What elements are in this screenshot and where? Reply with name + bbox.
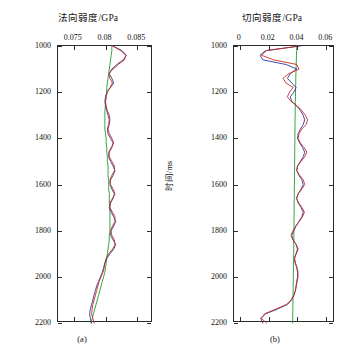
y-tick-mark — [147, 231, 151, 232]
y-tick-label: 2000 — [5, 271, 51, 280]
chart-panel-a: 法向弱度/GPa 0.0750.080.085 1000120014001600… — [0, 0, 180, 355]
y-tick-label: 1200 — [5, 87, 51, 96]
y-tick-mark — [234, 323, 238, 324]
panel-b-plot-area — [233, 45, 334, 322]
x-tick-label: 0 — [237, 33, 241, 42]
x-tick-label: 0.075 — [64, 33, 82, 42]
x-tick-mark — [106, 46, 107, 50]
y-tick-mark — [147, 92, 151, 93]
panel-a-caption: (a) — [0, 334, 172, 344]
panel-a-plot-area — [57, 45, 152, 322]
y-tick-label: 1000 — [182, 41, 227, 50]
y-tick-mark — [329, 46, 333, 47]
y-tick-label: 1200 — [182, 87, 227, 96]
y-tick-mark — [58, 323, 62, 324]
series-inverted-blue — [90, 46, 127, 323]
y-tick-mark — [58, 231, 62, 232]
y-tick-mark — [234, 46, 238, 47]
y-tick-mark — [234, 277, 238, 278]
x-tick-mark — [74, 46, 75, 50]
y-tick-mark — [329, 138, 333, 139]
x-tick-mark — [106, 317, 107, 321]
x-tick-mark — [269, 46, 270, 50]
y-tick-mark — [329, 277, 333, 278]
x-tick-mark — [326, 317, 327, 321]
panel-b-y-axis-label: 时间/ms — [162, 161, 174, 191]
y-tick-mark — [147, 185, 151, 186]
x-tick-mark — [297, 317, 298, 321]
y-tick-label: 1800 — [182, 225, 227, 234]
panel-b-caption: (b) — [185, 334, 357, 344]
x-tick-mark — [269, 317, 270, 321]
y-tick-mark — [329, 185, 333, 186]
x-tick-mark — [137, 46, 138, 50]
x-tick-mark — [240, 317, 241, 321]
y-tick-mark — [329, 231, 333, 232]
y-tick-mark — [147, 323, 151, 324]
y-tick-mark — [234, 231, 238, 232]
y-tick-label: 1400 — [182, 133, 227, 142]
panel-b-title: 切向弱度/GPa — [187, 10, 357, 24]
y-tick-mark — [58, 92, 62, 93]
y-tick-mark — [234, 185, 238, 186]
y-tick-mark — [58, 185, 62, 186]
series-true-model — [91, 46, 112, 323]
y-tick-label: 2200 — [5, 318, 51, 327]
y-tick-mark — [147, 277, 151, 278]
y-tick-mark — [58, 46, 62, 47]
y-tick-label: 1800 — [5, 225, 51, 234]
y-tick-label: 1600 — [182, 179, 227, 188]
x-tick-mark — [240, 46, 241, 50]
panel-b-curves — [234, 46, 335, 323]
series-inverted-red — [261, 46, 307, 323]
y-tick-mark — [329, 92, 333, 93]
y-tick-label: 2000 — [182, 271, 227, 280]
y-tick-label: 1000 — [5, 41, 51, 50]
chart-panel-b: 切向弱度/GPa 00.020.040.06 10001200140016001… — [177, 0, 357, 355]
x-tick-mark — [297, 46, 298, 50]
x-tick-label: 0.02 — [261, 33, 275, 42]
y-tick-mark — [234, 92, 238, 93]
x-tick-mark — [326, 46, 327, 50]
y-tick-mark — [234, 138, 238, 139]
x-tick-mark — [74, 317, 75, 321]
y-tick-mark — [147, 46, 151, 47]
panel-a-title: 法向弱度/GPa — [18, 10, 158, 24]
y-tick-mark — [147, 138, 151, 139]
series-inverted-blue — [260, 46, 305, 323]
y-tick-label: 2200 — [182, 318, 227, 327]
y-tick-label: 1400 — [5, 133, 51, 142]
x-tick-label: 0.085 — [127, 33, 145, 42]
x-tick-mark — [137, 317, 138, 321]
y-tick-mark — [58, 277, 62, 278]
x-tick-label: 0.08 — [98, 33, 112, 42]
panel-a-curves — [58, 46, 153, 323]
figure-container: 法向弱度/GPa 0.0750.080.085 1000120014001600… — [0, 0, 357, 355]
y-tick-mark — [58, 138, 62, 139]
x-tick-label: 0.06 — [318, 33, 332, 42]
x-tick-label: 0.04 — [289, 33, 303, 42]
y-tick-mark — [329, 323, 333, 324]
y-tick-label: 1600 — [5, 179, 51, 188]
